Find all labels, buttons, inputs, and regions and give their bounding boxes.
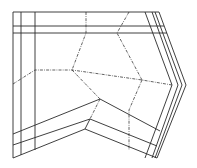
solid-lines: [13, 12, 182, 158]
diagram-canvas: [0, 0, 197, 168]
dashed-line: [117, 12, 142, 80]
dashed-line: [72, 70, 100, 99]
solid-line: [145, 12, 172, 158]
dashed-line: [13, 70, 172, 85]
solid-line: [152, 12, 178, 158]
dashed-line: [72, 12, 86, 70]
